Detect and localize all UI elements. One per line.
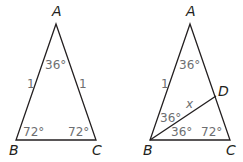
- left-triangle: A B C 36° 72° 72° 1 1: [9, 3, 102, 158]
- segment-label-x: x: [185, 97, 194, 111]
- angle-label-a: 36°: [45, 58, 66, 72]
- vertex-label-d: D: [218, 83, 229, 99]
- vertex-label-b: B: [143, 142, 153, 158]
- side-label-ab: 1: [27, 77, 35, 91]
- right-triangle: A B C D 36° 36° 36° 72° 1 x: [143, 3, 236, 158]
- vertex-label-b: B: [9, 142, 19, 158]
- vertex-label-a: A: [51, 3, 62, 19]
- side-label-ab: 1: [161, 77, 169, 91]
- angle-label-b: 72°: [23, 125, 44, 139]
- diagram-canvas: A B C 36° 72° 72° 1 1 A B C D 36° 36° 36…: [0, 0, 243, 162]
- angle-label-c: 72°: [201, 125, 222, 139]
- angle-label-dbc: 36°: [171, 125, 192, 139]
- vertex-label-a: A: [185, 3, 196, 19]
- vertex-label-c: C: [226, 142, 236, 158]
- angle-label-abd: 36°: [160, 111, 181, 125]
- angle-label-a: 36°: [179, 58, 200, 72]
- vertex-label-c: C: [92, 142, 102, 158]
- angle-label-c: 72°: [68, 125, 89, 139]
- side-label-ac: 1: [79, 77, 87, 91]
